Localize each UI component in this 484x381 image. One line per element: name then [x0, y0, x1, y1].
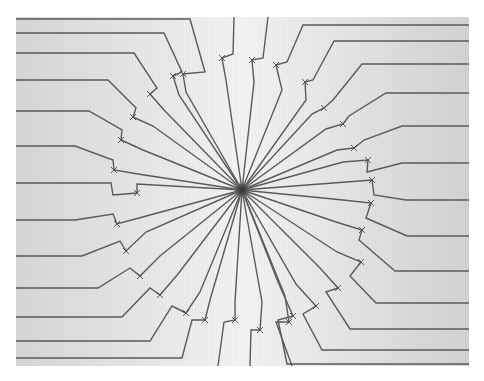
center-hub	[233, 181, 251, 199]
radial-line-artwork	[0, 0, 484, 381]
